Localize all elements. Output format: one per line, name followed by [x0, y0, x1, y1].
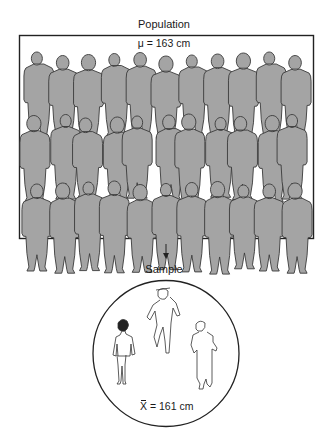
sample-mean-label: X = 161 cm [140, 400, 204, 412]
population-box [20, 36, 314, 275]
sample-mean-value: = 161 cm [147, 400, 193, 412]
population-title: Population [0, 18, 328, 30]
diagram-canvas [0, 0, 328, 432]
x-bar-symbol: X [140, 400, 147, 412]
sample-title: Sample [0, 263, 328, 275]
population-mean-label: μ = 163 cm [0, 37, 328, 49]
population-silhouettes [20, 52, 312, 274]
